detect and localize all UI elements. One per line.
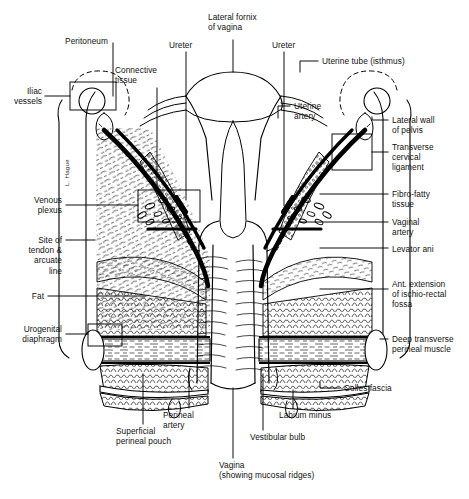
label-uterine-artery: Uterine artery [294, 101, 321, 121]
label-vagina: Vagina (showing mucosal ridges) [219, 460, 314, 480]
label-superficial-perineal-pouch: Superficial perineal pouch [116, 426, 171, 446]
label-connective-tissue: Connective tissue [115, 65, 157, 85]
label-fibro-fatty-tissue: Fibro-fatty tissue [392, 189, 430, 209]
artist-signature: L. Hague [63, 159, 70, 186]
anatomical-figure: Peritoneum Iliac vessels Connective tiss… [0, 0, 469, 499]
label-lateral-fornix: Lateral fornix of vagina [208, 12, 257, 32]
label-ureter-left: Ureter [169, 40, 192, 50]
label-labium-minus: Labium minus [279, 410, 331, 420]
label-lateral-wall-of-pelvis: Lateral wall of pelvis [392, 115, 435, 135]
label-vestibular-bulb: Vestibular bulb [250, 432, 305, 442]
label-iliac-vessels: Iliac vessels [0, 86, 42, 106]
label-colles-fascia: Colles fascia [344, 383, 392, 393]
label-transverse-cervical-ligament: Transverse cervical ligament [392, 142, 434, 173]
label-fat: Fat [0, 291, 44, 301]
label-uterine-tube: Uterine tube (isthmus) [322, 56, 405, 66]
label-vaginal-artery: Vaginal artery [392, 217, 419, 237]
label-ureter-right: Ureter [272, 40, 295, 50]
label-peritoneum: Peritoneum [0, 36, 108, 46]
label-levator-ani: Levator ani [392, 244, 434, 254]
label-venous-plexus: Venous plexus [0, 195, 62, 215]
label-deep-transverse-perineal-muscle: Deep transverse perineal muscle [392, 334, 454, 354]
label-urogenital-diaphragm: Urogenital diaphragm [0, 324, 62, 344]
label-site-of-tendon-arcuate-line: Site of tendon & arcuate line [0, 235, 62, 276]
label-ant-extension-ischio-rectal-fossa: Ant. extension of ischio-rectal fossa [392, 279, 446, 310]
